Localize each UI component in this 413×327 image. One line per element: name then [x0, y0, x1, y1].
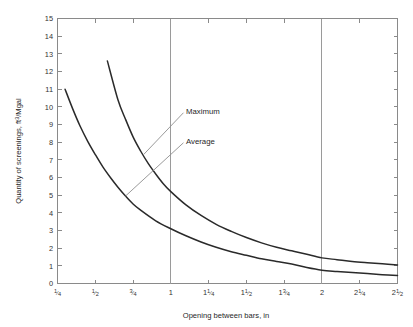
x-axis-title: Opening between bars, in [183, 311, 270, 320]
y-tick-label: 13 [45, 50, 53, 59]
annotation-label-average: Average [186, 137, 215, 146]
y-tick-label: 14 [45, 32, 53, 41]
y-tick-label: 8 [49, 138, 53, 147]
y-tick-label: 2 [49, 244, 53, 253]
chart-figure: 0123456789101112131415 1⁄41⁄23⁄4111⁄411⁄… [0, 0, 413, 327]
y-tick-label: 4 [49, 209, 53, 218]
y-axis-title: Quantity of screenings, ft3/Mgal [14, 98, 23, 204]
x-tick-label: 2 [320, 288, 324, 297]
y-tick-label: 10 [45, 103, 53, 112]
annotation-label-maximum: Maximum [186, 107, 220, 116]
y-tick-label: 9 [49, 120, 53, 129]
y-tick-label: 0 [49, 279, 53, 288]
y-tick-label: 11 [45, 85, 53, 94]
y-tick-label: 6 [49, 173, 53, 182]
y-tick-label: 12 [45, 67, 53, 76]
y-tick-label: 1 [49, 262, 53, 271]
quantity-of-screenings-chart: 0123456789101112131415 1⁄41⁄23⁄4111⁄411⁄… [0, 0, 413, 327]
chart-background [0, 0, 413, 327]
y-tick-label: 3 [49, 226, 53, 235]
y-tick-label: 15 [45, 14, 53, 23]
y-tick-label: 7 [49, 156, 53, 165]
y-tick-label: 5 [49, 191, 53, 200]
x-tick-label: 1 [169, 288, 173, 297]
